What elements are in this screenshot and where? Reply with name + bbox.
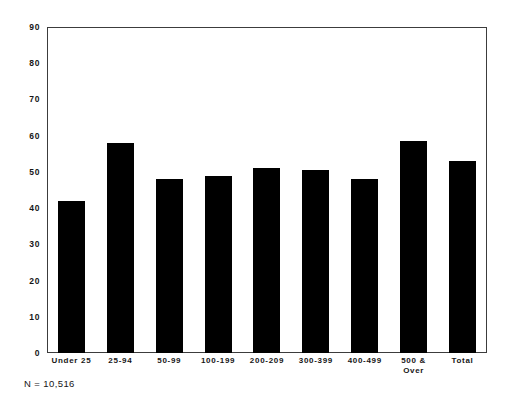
bar-slot: [145, 27, 194, 353]
y-axis-tick-label: 50: [29, 167, 40, 177]
y-axis-tick-label: 90: [29, 22, 40, 32]
bar-slot: [291, 27, 340, 353]
bar: [400, 141, 427, 353]
bar-slot: [438, 27, 487, 353]
bar-chart-figure: 0102030405060708090 Under 2525-9450-9910…: [0, 0, 512, 407]
x-axis-tick-label-line1: Total: [427, 356, 499, 366]
x-axis-tick-label-line2: Over: [378, 366, 450, 376]
bars-layer: [47, 27, 487, 353]
y-axis-tick-label: 60: [29, 131, 40, 141]
bar-slot: [194, 27, 243, 353]
bar: [205, 176, 232, 353]
bar-slot: [340, 27, 389, 353]
bar-slot: [96, 27, 145, 353]
y-axis-tick-label: 30: [29, 239, 40, 249]
sample-size-note: N = 10,516: [24, 378, 75, 389]
y-axis-tick-label: 70: [29, 94, 40, 104]
y-axis-tick-label: 20: [29, 276, 40, 286]
bar-slot: [389, 27, 438, 353]
bar: [302, 170, 329, 353]
bar: [253, 168, 280, 353]
bar: [58, 201, 85, 353]
y-axis-tick-label: 10: [29, 312, 40, 322]
bar: [107, 143, 134, 353]
x-axis: Under 2525-9450-99100-199200-209300-3994…: [47, 356, 487, 390]
bar: [351, 179, 378, 353]
bar: [449, 161, 476, 353]
y-axis-tick-label: 40: [29, 203, 40, 213]
x-axis-tick-label: Total: [427, 356, 499, 366]
bar-slot: [47, 27, 96, 353]
y-axis: 0102030405060708090: [0, 20, 47, 365]
y-axis-tick-label: 80: [29, 58, 40, 68]
bar: [156, 179, 183, 353]
bar-slot: [243, 27, 292, 353]
